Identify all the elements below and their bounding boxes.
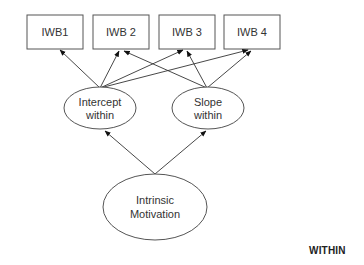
path-diagram: IWB1 IWB 2 IWB 3 IWB 4 Intercept within … xyxy=(0,0,364,265)
indicator-label: IWB 3 xyxy=(172,26,202,38)
edge-intercept-iwb1 xyxy=(60,50,100,88)
indicator-box-iwb3: IWB 3 xyxy=(159,15,215,49)
edge-intrinsic-slope xyxy=(155,131,206,174)
latent-intrinsic-motivation: Intrinsic Motivation xyxy=(103,174,207,240)
edges-slope xyxy=(124,51,251,88)
indicator-box-iwb2: IWB 2 xyxy=(93,15,149,49)
indicator-box-iwb1: IWB1 xyxy=(27,15,83,49)
edge-slope-iwb3 xyxy=(187,51,207,88)
latent-label-line2: within xyxy=(193,109,222,121)
latent-label-line1: Intrinsic xyxy=(136,194,174,206)
indicator-label: IWB 2 xyxy=(106,26,136,38)
edge-intercept-iwb2 xyxy=(100,51,119,88)
latent-label-line2: within xyxy=(85,109,114,121)
edge-intrinsic-intercept xyxy=(105,131,155,174)
edge-slope-iwb4 xyxy=(207,51,251,88)
edge-intercept-iwb4 xyxy=(100,50,248,88)
latent-label-line1: Slope xyxy=(194,96,222,108)
edge-intercept-iwb3 xyxy=(100,50,183,88)
latent-label-line2: Motivation xyxy=(130,208,180,220)
edges-intercept xyxy=(60,50,248,88)
latent-label-line1: Intercept xyxy=(79,96,122,108)
indicator-label: IWB 4 xyxy=(237,26,267,38)
latent-slope-within: Slope within xyxy=(172,87,244,129)
latent-intercept-within: Intercept within xyxy=(64,87,136,129)
indicator-label: IWB1 xyxy=(42,26,69,38)
edge-slope-iwb2 xyxy=(124,51,207,88)
level-label-within: WITHIN xyxy=(309,245,346,256)
edges-intrinsic xyxy=(105,131,206,174)
indicator-box-iwb4: IWB 4 xyxy=(224,15,280,49)
